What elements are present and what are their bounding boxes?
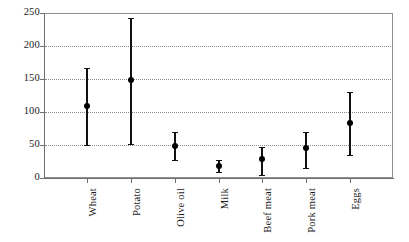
- error-bar-cap-upper: [259, 147, 265, 148]
- gridline: [45, 145, 393, 146]
- error-bar-cap-lower: [303, 168, 309, 169]
- y-tick-label: 50: [29, 139, 40, 150]
- chart-root: 050100150200250 WheatPotatoOlive oilMilk…: [0, 0, 409, 242]
- x-tick-label: Olive oil: [175, 188, 186, 227]
- error-bar-cap-lower: [347, 155, 353, 156]
- x-tick-label: Eggs: [350, 188, 361, 210]
- y-tick-label: 0: [35, 172, 40, 183]
- error-bar-cap-lower: [259, 175, 265, 176]
- x-tick-mark: [350, 178, 351, 183]
- x-tick-label: Pork meat: [306, 188, 317, 233]
- error-bar-cap-upper: [172, 132, 178, 133]
- plot-area: [44, 13, 393, 178]
- x-tick-label: Potato: [131, 188, 142, 216]
- x-tick-label: Beef meat: [262, 188, 273, 233]
- y-tick-mark: [40, 46, 45, 47]
- y-axis-line: [44, 13, 45, 179]
- y-tick-label: 200: [24, 40, 40, 51]
- x-tick-mark: [262, 178, 263, 183]
- data-point-marker: [84, 103, 90, 109]
- x-tick-label: Milk: [219, 188, 230, 209]
- error-bar-cap-lower: [84, 145, 90, 146]
- gridline: [45, 112, 393, 113]
- x-tick-mark: [175, 178, 176, 183]
- error-bar-cap-upper: [216, 160, 222, 161]
- x-tick-mark: [87, 178, 88, 183]
- y-tick-label: 250: [24, 7, 40, 18]
- y-tick-mark: [40, 79, 45, 80]
- error-bar-cap-upper: [84, 68, 90, 69]
- data-point-marker: [259, 156, 265, 162]
- y-tick-label: 150: [24, 73, 40, 84]
- x-tick-label: Wheat: [87, 188, 98, 216]
- error-bar-cap-upper: [347, 92, 353, 93]
- gridline: [45, 46, 393, 47]
- gridline: [45, 79, 393, 80]
- x-tick-mark: [219, 178, 220, 183]
- y-tick-mark: [40, 112, 45, 113]
- error-bar-cap-upper: [303, 132, 309, 133]
- error-bar-cap-lower: [128, 144, 134, 145]
- y-tick-mark: [40, 13, 45, 14]
- error-bar-cap-lower: [216, 172, 222, 173]
- y-tick-mark: [40, 145, 45, 146]
- error-bar-cap-upper: [128, 18, 134, 19]
- x-tick-mark: [131, 178, 132, 183]
- y-tick-label: 100: [24, 106, 40, 117]
- y-tick-mark: [40, 178, 45, 179]
- error-bar-cap-lower: [172, 160, 178, 161]
- x-tick-mark: [306, 178, 307, 183]
